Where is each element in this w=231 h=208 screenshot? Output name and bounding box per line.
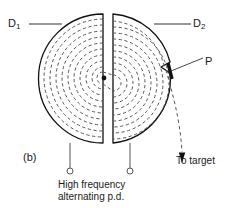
figure-drawing [0,0,231,208]
terminal-left [67,168,73,174]
label-supply: High frequency alternating p.d. [58,179,125,202]
label-deflector-p: P [205,55,212,68]
label-dee-d2: D2 [193,17,205,31]
ion-source-dot [102,76,107,81]
terminal-right [127,168,133,174]
label-dee-d1-text: D [8,17,16,29]
label-dee-d1-subscript: 1 [16,22,20,31]
leader-p [171,58,203,71]
label-to-target: To target [176,155,215,167]
cyclotron-figure: D1 D2 P (b) To target High frequency alt… [0,0,231,208]
label-dee-d2-subscript: 2 [201,22,205,31]
label-dee-d2-text: D [193,17,201,29]
figure-caption: (b) [23,151,36,164]
label-supply-line2: alternating p.d. [58,191,125,203]
label-dee-d1: D1 [8,17,20,31]
dee-d1 [39,14,104,143]
label-supply-line1: High frequency [58,179,125,191]
